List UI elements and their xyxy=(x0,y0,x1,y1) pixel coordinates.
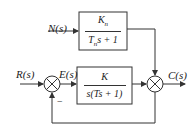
error-signal-label: E(s) xyxy=(59,69,77,80)
fraction-bar xyxy=(85,31,121,32)
plant-transfer-function: K s(Ts + 1) xyxy=(77,67,132,104)
plant-numerator: K xyxy=(101,72,108,82)
feedback-minus-sign: − xyxy=(57,96,63,107)
disturbance-denominator: Tns + 1 xyxy=(88,35,118,48)
disturbance-numerator: Kn xyxy=(98,15,108,28)
output-summing-junction xyxy=(147,76,163,92)
input-summing-junction xyxy=(44,76,60,92)
plant-denominator: s(Ts + 1) xyxy=(87,89,123,99)
fraction-bar xyxy=(84,85,126,86)
disturbance-transfer-function: Kn Tns + 1 xyxy=(79,12,127,50)
input-signal-label: R(s) xyxy=(16,69,34,80)
output-signal-label: C(s) xyxy=(168,70,187,81)
disturbance-signal-label: N(s) xyxy=(48,23,67,34)
